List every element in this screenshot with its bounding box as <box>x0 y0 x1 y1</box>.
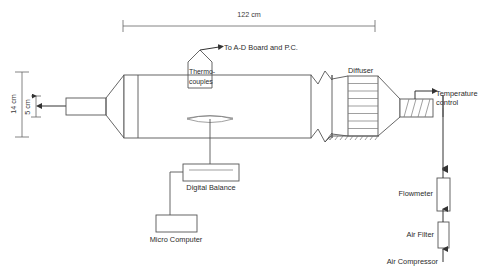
ground-support-hatching <box>325 136 379 142</box>
diffuser-label: Diffuser <box>348 66 374 75</box>
contraction-cone <box>106 75 124 138</box>
air-filter: Air Filter <box>406 209 449 248</box>
duct-break-symbol <box>311 71 332 142</box>
ad-board-label: To A-D Board and P.C. <box>224 43 298 52</box>
test-section-duct <box>124 75 311 138</box>
diffuser: Diffuser <box>332 66 378 136</box>
overall-length-dimension: 122 cm <box>123 10 375 32</box>
flowmeter: Flowmeter <box>399 168 451 211</box>
air-compressor: Air Compressor <box>387 249 443 266</box>
air-outlet-nozzle <box>42 98 106 115</box>
heater-coil <box>400 99 433 117</box>
thermocouples-label-line2: couples <box>189 78 213 86</box>
thermocouples-label-line1: Thermo- <box>189 68 215 75</box>
apparatus-diagram: 122 cm 14 cm 5 cm <box>0 0 486 276</box>
inner-height-dimension-label: 5 cm <box>23 99 32 115</box>
height-dimension-5cm: 5 cm <box>23 96 41 117</box>
length-dimension-label: 122 cm <box>237 10 261 19</box>
temperature-control-label-line2: control <box>436 98 459 107</box>
inlet-converging-cone <box>378 76 400 136</box>
air-filter-label: Air Filter <box>406 230 434 239</box>
temperature-control-label-line1: Temperature <box>436 89 478 98</box>
air-compressor-label: Air Compressor <box>387 257 439 266</box>
digital-balance: Digital Balance <box>183 164 239 192</box>
micro-computer-label: Micro Computer <box>150 235 203 244</box>
flowmeter-label: Flowmeter <box>399 189 434 198</box>
height-dimension-label: 14 cm <box>9 94 18 114</box>
digital-balance-label: Digital Balance <box>186 183 235 192</box>
